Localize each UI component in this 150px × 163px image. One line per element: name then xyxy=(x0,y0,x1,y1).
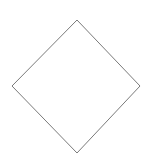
diagram-canvas xyxy=(0,0,150,163)
decision-diamond xyxy=(12,20,140,153)
